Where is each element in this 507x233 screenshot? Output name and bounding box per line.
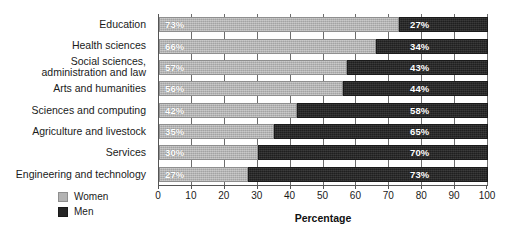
x-axis-tick <box>388 185 389 189</box>
bar-segment-men: 44% <box>343 81 488 96</box>
x-axis-tick <box>191 185 192 189</box>
bar-label-men: 44% <box>410 83 429 94</box>
bar-segment-men: 58% <box>297 103 488 118</box>
bar-label-women: 42% <box>165 105 184 116</box>
bar-row: 56%44% <box>159 81 488 96</box>
x-axis-tick <box>323 185 324 189</box>
category-label: Services <box>0 142 152 163</box>
category-axis-labels: EducationHealth sciencesSocial sciences,… <box>0 14 152 185</box>
women-swatch-icon <box>58 192 68 202</box>
bar-label-men: 34% <box>410 41 429 52</box>
category-label: Health sciences <box>0 35 152 56</box>
category-label: Education <box>0 14 152 35</box>
bar-row: 35%65% <box>159 124 488 139</box>
bar-segment-men: 27% <box>399 17 488 32</box>
bar-segment-women: 73% <box>159 17 399 32</box>
category-label: Agriculture and livestock <box>0 121 152 142</box>
bar-segment-men: 34% <box>376 39 488 54</box>
category-label-text: Engineering and technology <box>16 169 146 180</box>
category-label-text: Sciences and computing <box>32 105 146 116</box>
category-label: Social sciences,administration and law <box>0 57 152 78</box>
plot-area: 73%27%66%34%57%43%56%44%42%58%35%65%30%7… <box>158 14 488 185</box>
x-axis-tick <box>224 185 225 189</box>
bar-label-women: 66% <box>165 41 184 52</box>
x-axis-tick <box>421 185 422 189</box>
category-label-text: Education <box>99 19 146 30</box>
bar-row: 57%43% <box>159 60 488 75</box>
bar-segment-men: 65% <box>274 124 488 139</box>
bar-label-women: 57% <box>165 62 184 73</box>
legend-label-men: Men <box>74 206 93 217</box>
bar-row: 30%70% <box>159 145 488 160</box>
bar-label-women: 30% <box>165 147 184 158</box>
stacked-bar-chart: EducationHealth sciencesSocial sciences,… <box>0 0 507 233</box>
category-label: Engineering and technology <box>0 164 152 185</box>
bar-label-men: 73% <box>410 169 429 180</box>
x-axis-tick <box>158 185 159 189</box>
bar-segment-women: 56% <box>159 81 343 96</box>
category-label-text: Arts and humanities <box>53 83 146 94</box>
bar-label-men: 43% <box>410 62 429 73</box>
bar-row: 73%27% <box>159 17 488 32</box>
bar-segment-women: 30% <box>159 145 258 160</box>
bar-segment-women: 57% <box>159 60 347 75</box>
category-label-text: Agriculture and livestock <box>32 126 146 137</box>
bar-row: 42%58% <box>159 103 488 118</box>
category-label-text: Services <box>106 147 146 158</box>
bar-segment-women: 42% <box>159 103 297 118</box>
category-label-text: Health sciences <box>72 40 146 51</box>
bar-label-men: 70% <box>410 147 429 158</box>
x-axis-tick <box>486 185 487 189</box>
bar-segment-women: 66% <box>159 39 376 54</box>
category-label: Arts and humanities <box>0 78 152 99</box>
x-axis-title: Percentage <box>158 212 488 224</box>
x-axis-tick <box>454 185 455 189</box>
bar-segment-men: 43% <box>347 60 488 75</box>
x-axis-tick <box>257 185 258 189</box>
x-axis-tick-label: 100 <box>467 190 507 201</box>
bar-label-women: 56% <box>165 83 184 94</box>
bar-segment-women: 35% <box>159 124 274 139</box>
bar-label-men: 58% <box>410 105 429 116</box>
bar-segment-women: 27% <box>159 167 248 182</box>
bar-label-men: 27% <box>410 19 429 30</box>
bar-row: 27%73% <box>159 167 488 182</box>
legend-label-women: Women <box>74 191 108 202</box>
bar-label-women: 27% <box>165 169 184 180</box>
x-axis-tick <box>290 185 291 189</box>
legend-item-men: Men <box>58 205 153 218</box>
bar-label-men: 65% <box>410 126 429 137</box>
bar-segment-men: 73% <box>248 167 488 182</box>
bar-row: 66%34% <box>159 39 488 54</box>
bar-label-women: 35% <box>165 126 184 137</box>
men-swatch-icon <box>58 207 68 217</box>
x-axis-tick <box>355 185 356 189</box>
bar-segment-men: 70% <box>258 145 488 160</box>
bar-label-women: 73% <box>165 19 184 30</box>
category-label-text: Social sciences,administration and law <box>42 56 146 79</box>
category-label: Sciences and computing <box>0 100 152 121</box>
